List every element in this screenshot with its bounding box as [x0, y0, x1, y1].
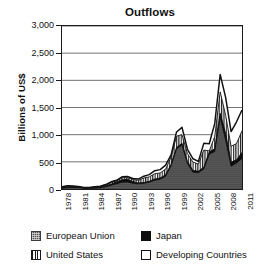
- legend-label: European Union: [46, 230, 115, 241]
- y-tick-label: 500: [8, 158, 54, 168]
- x-tick-label: 2008: [229, 193, 238, 210]
- x-tick-label: 1987: [114, 193, 123, 210]
- legend-label: Japan: [156, 230, 182, 241]
- y-tick-label: 0: [8, 185, 54, 195]
- legend-item-united-states: United States: [31, 249, 141, 260]
- chart-legend: European Union Japan United States Devel…: [31, 226, 257, 264]
- plot-area: [61, 25, 243, 190]
- united-states-swatch: [31, 250, 41, 260]
- y-axis-ticks: 05001,0001,5002,0002,5003,000: [4, 25, 54, 190]
- x-tick-label: 2005: [213, 193, 222, 210]
- legend-label: Developing Countries: [156, 249, 247, 260]
- y-tick-label: 2,000: [8, 75, 54, 85]
- x-tick-label: 1981: [81, 193, 90, 210]
- y-tick-label: 2,500: [8, 48, 54, 58]
- developing-countries-swatch: [141, 250, 151, 260]
- x-tick-label: 1996: [163, 193, 172, 210]
- eu-swatch: [31, 231, 41, 241]
- legend-item-developing-countries: Developing Countries: [141, 249, 257, 260]
- x-axis-ticks: 1978198119841987199019931996199920022005…: [61, 191, 243, 225]
- x-tick-label: 2002: [196, 193, 205, 210]
- y-tick-label: 1,000: [8, 130, 54, 140]
- x-tick-label: 1978: [64, 193, 73, 210]
- stacked-area-svg: [62, 26, 242, 189]
- legend-row: European Union Japan: [31, 226, 257, 245]
- chart-title: Outflows: [55, 6, 245, 18]
- japan-swatch: [141, 231, 151, 241]
- y-tick-label: 3,000: [8, 20, 54, 30]
- legend-item-japan: Japan: [141, 230, 257, 241]
- x-tick-label: 1984: [97, 193, 106, 210]
- legend-item-european-union: European Union: [31, 230, 141, 241]
- legend-label: United States: [46, 249, 103, 260]
- legend-row: United States Developing Countries: [31, 245, 257, 264]
- x-tick-label: 2011: [246, 193, 255, 210]
- x-tick-label: 1990: [130, 193, 139, 210]
- y-tick-label: 1,500: [8, 103, 54, 113]
- chart-figure: Outflows Billions of US$ 05001,0001,5002…: [0, 0, 263, 278]
- x-tick-label: 1999: [180, 193, 189, 210]
- x-tick-label: 1993: [147, 193, 156, 210]
